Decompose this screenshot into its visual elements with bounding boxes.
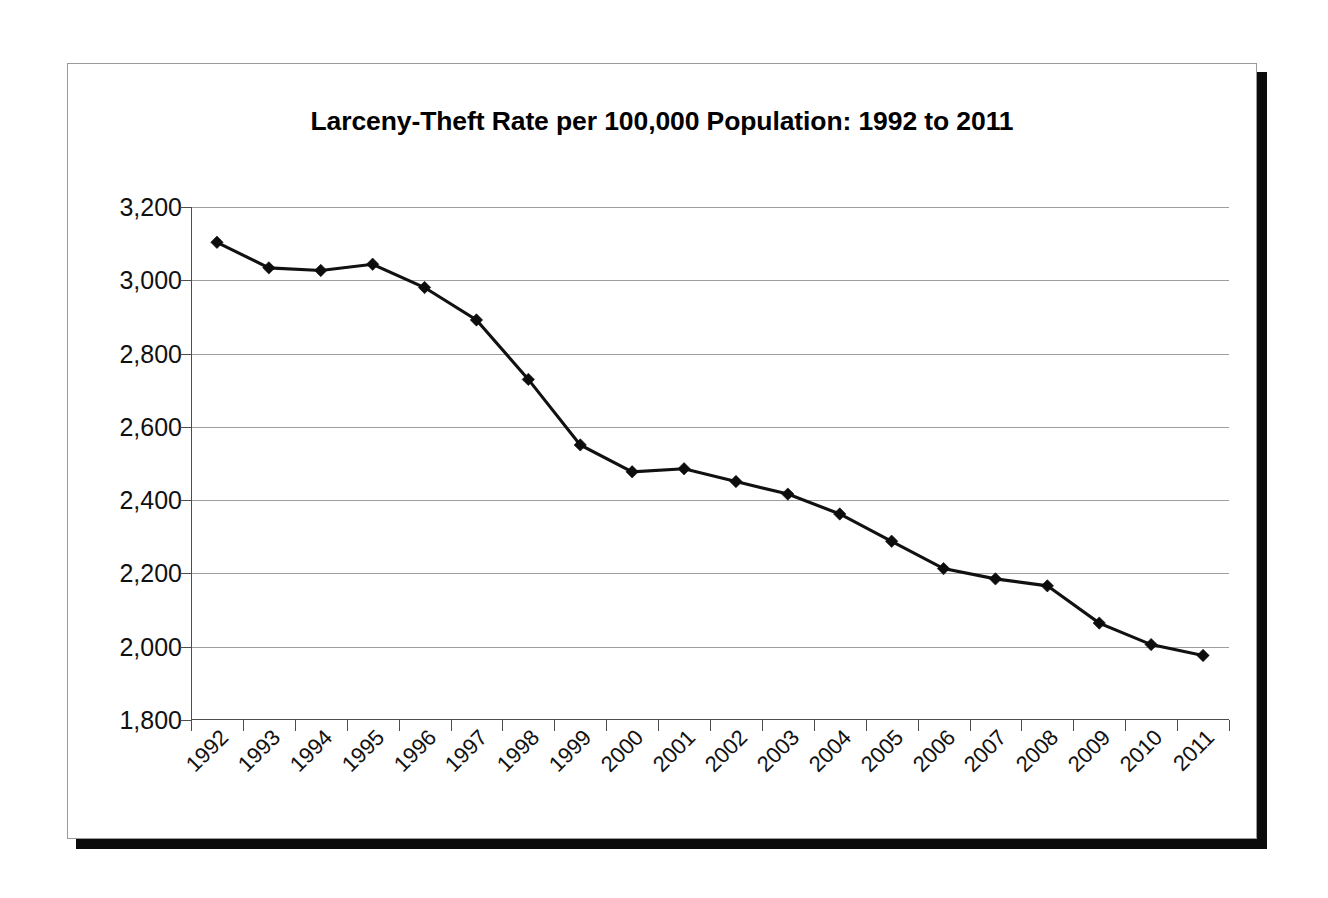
y-axis-tick-label: 2,400 <box>68 488 182 513</box>
data-point-marker <box>263 262 275 274</box>
series-line-larceny-theft-rate <box>217 242 1203 655</box>
y-axis-tick-label: 2,200 <box>68 561 182 586</box>
data-point-marker <box>834 508 846 520</box>
data-point-marker <box>1197 649 1209 661</box>
chart-title: Larceny-Theft Rate per 100,000 Populatio… <box>68 106 1256 137</box>
x-axis-labels: 1992199319941995199619971998199920002001… <box>191 720 1229 830</box>
y-axis-labels: 3,2003,0002,8002,6002,4002,2002,0001,800 <box>68 207 182 720</box>
y-axis-tick-label: 3,000 <box>68 268 182 293</box>
y-axis-tick-label: 1,800 <box>68 708 182 733</box>
data-point-marker <box>366 258 378 270</box>
data-point-marker <box>937 562 949 574</box>
x-axis-ticks <box>180 208 1230 732</box>
data-point-marker <box>782 488 794 500</box>
plot-area <box>191 207 1229 720</box>
line-chart-svg <box>191 207 1229 720</box>
data-point-marker <box>730 475 742 487</box>
data-point-marker <box>626 466 638 478</box>
y-axis-tick-label: 2,600 <box>68 414 182 439</box>
series-markers <box>211 236 1210 662</box>
data-point-marker <box>211 236 223 248</box>
chart-page: Larceny-Theft Rate per 100,000 Populatio… <box>0 0 1328 898</box>
chart-frame: Larceny-Theft Rate per 100,000 Populatio… <box>67 63 1257 839</box>
gridlines <box>191 208 1229 648</box>
data-point-marker <box>989 573 1001 585</box>
y-axis-tick-label: 2,000 <box>68 634 182 659</box>
y-axis-tick-label: 2,800 <box>68 341 182 366</box>
data-point-marker <box>315 264 327 276</box>
y-axis-tick-label: 3,200 <box>68 195 182 220</box>
data-point-marker <box>1145 638 1157 650</box>
data-point-marker <box>885 535 897 547</box>
data-point-marker <box>678 463 690 475</box>
